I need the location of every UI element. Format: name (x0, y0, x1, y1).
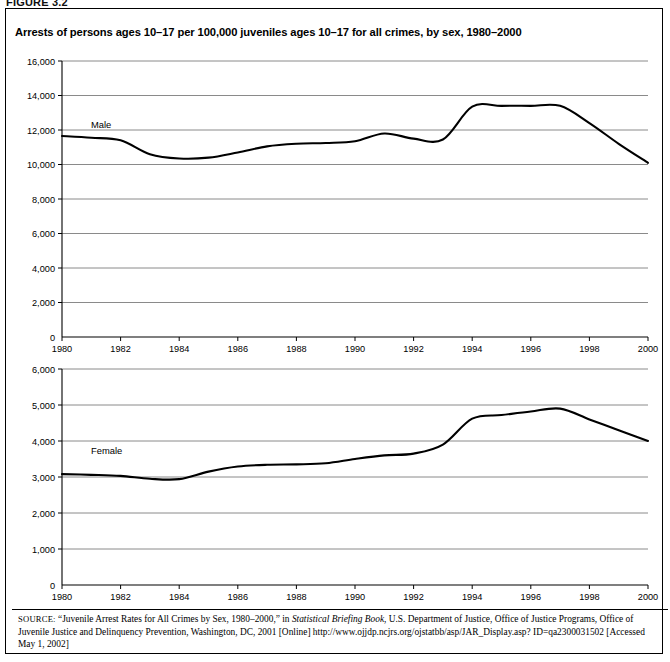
source-text-1: “Juvenile Arrest Rates for All Crimes by… (58, 614, 292, 624)
x-tick-label: 1994 (462, 344, 482, 354)
y-tick-label: 14,000 (27, 91, 55, 101)
figure-frame: Arrests of persons ages 10–17 per 100,00… (5, 8, 663, 654)
y-tick-label: 4,000 (32, 437, 55, 447)
y-tick-label: 10,000 (27, 160, 55, 170)
x-tick-label: 1988 (286, 344, 306, 354)
y-tick-label: 6,000 (32, 365, 55, 375)
source-note: SOURCE: “Juvenile Arrest Rates for All C… (18, 613, 652, 651)
female-chart-svg: 01,0002,0003,0004,0005,0006,000198019821… (6, 361, 664, 611)
source-label: SOURCE: (18, 614, 56, 624)
y-tick-label: 16,000 (27, 57, 55, 67)
series-label: Female (91, 445, 122, 456)
x-tick-label: 1994 (462, 592, 482, 602)
x-tick-label: 1984 (169, 592, 189, 602)
x-tick-label: 1992 (403, 344, 423, 354)
x-tick-label: 1984 (169, 344, 189, 354)
y-tick-label: 1,000 (32, 545, 55, 555)
data-line (62, 104, 648, 163)
data-line (62, 408, 648, 479)
y-tick-label: 3,000 (32, 473, 55, 483)
male-chart-svg: 02,0004,0006,0008,00010,00012,00014,0001… (6, 53, 664, 363)
chart-panel-male: 02,0004,0006,0008,00010,00012,00014,0001… (6, 53, 664, 363)
x-tick-label: 1998 (579, 592, 599, 602)
x-tick-label: 1990 (345, 344, 365, 354)
y-tick-label: 2,000 (32, 509, 55, 519)
x-tick-label: 1980 (52, 344, 72, 354)
y-tick-label: 0 (50, 581, 55, 591)
page-title: Arrests of persons ages 10–17 per 100,00… (15, 26, 522, 38)
x-tick-label: 1982 (110, 592, 130, 602)
y-tick-label: 6,000 (32, 229, 55, 239)
x-tick-label: 1980 (52, 592, 72, 602)
x-tick-label: 1996 (521, 344, 541, 354)
x-tick-label: 1986 (228, 592, 248, 602)
x-tick-label: 1982 (110, 344, 130, 354)
source-divider (12, 609, 668, 610)
source-italic-title: Statistical Briefing Book (292, 614, 384, 624)
y-tick-label: 0 (50, 333, 55, 343)
x-tick-label: 2000 (638, 592, 658, 602)
x-tick-label: 1986 (228, 344, 248, 354)
x-tick-label: 1996 (521, 592, 541, 602)
y-tick-label: 8,000 (32, 195, 55, 205)
y-tick-label: 2,000 (32, 298, 55, 308)
x-tick-label: 1998 (579, 344, 599, 354)
series-label: Male (91, 119, 111, 130)
y-tick-label: 5,000 (32, 401, 55, 411)
x-tick-label: 1988 (286, 592, 306, 602)
chart-panel-female: 01,0002,0003,0004,0005,0006,000198019821… (6, 361, 664, 611)
y-tick-label: 12,000 (27, 126, 55, 136)
x-tick-label: 1992 (403, 592, 423, 602)
x-tick-label: 2000 (638, 344, 658, 354)
x-tick-label: 1990 (345, 592, 365, 602)
y-tick-label: 4,000 (32, 264, 55, 274)
figure-label: FIGURE 3.2 (6, 0, 68, 8)
